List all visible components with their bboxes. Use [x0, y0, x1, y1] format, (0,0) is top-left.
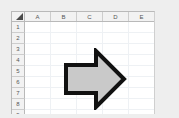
- table-row: 2: [12, 33, 154, 44]
- cell-c8[interactable]: [77, 99, 103, 110]
- cell-c6[interactable]: [77, 77, 103, 88]
- cell-a6[interactable]: [25, 77, 51, 88]
- column-header-row: A B C D E: [12, 12, 154, 22]
- cell-d2[interactable]: [103, 33, 129, 44]
- row-header-3[interactable]: 3: [12, 44, 25, 55]
- cell-b1[interactable]: [51, 22, 77, 33]
- table-row: 3: [12, 44, 154, 55]
- select-all-corner[interactable]: [12, 12, 25, 21]
- row-header-5[interactable]: 5: [12, 66, 25, 77]
- cell-d4[interactable]: [103, 55, 129, 66]
- cell-d3[interactable]: [103, 44, 129, 55]
- cell-e3[interactable]: [129, 44, 155, 55]
- row-header-1[interactable]: 1: [12, 22, 25, 33]
- select-all-triangle-icon: [16, 13, 23, 20]
- cell-c7[interactable]: [77, 88, 103, 99]
- spreadsheet-grid[interactable]: A B C D E 1 2 3: [11, 11, 155, 114]
- cell-c5[interactable]: [77, 66, 103, 77]
- table-row: 8: [12, 99, 154, 110]
- cell-d1[interactable]: [103, 22, 129, 33]
- table-row: 5: [12, 66, 154, 77]
- cell-e5[interactable]: [129, 66, 155, 77]
- column-header-c[interactable]: C: [77, 12, 103, 21]
- column-header-a[interactable]: A: [25, 12, 51, 21]
- cell-b9[interactable]: [51, 110, 77, 114]
- cell-c9[interactable]: [77, 110, 103, 114]
- row-header-8[interactable]: 8: [12, 99, 25, 110]
- cell-e1[interactable]: [129, 22, 155, 33]
- cell-e2[interactable]: [129, 33, 155, 44]
- row-header-9[interactable]: 9: [12, 110, 25, 114]
- cell-c2[interactable]: [77, 33, 103, 44]
- cell-e9[interactable]: [129, 110, 155, 114]
- row-header-4[interactable]: 4: [12, 55, 25, 66]
- table-row: 1: [12, 22, 154, 33]
- cell-e7[interactable]: [129, 88, 155, 99]
- cell-e8[interactable]: [129, 99, 155, 110]
- cell-a3[interactable]: [25, 44, 51, 55]
- cell-a5[interactable]: [25, 66, 51, 77]
- cell-a4[interactable]: [25, 55, 51, 66]
- row-header-2[interactable]: 2: [12, 33, 25, 44]
- cell-e4[interactable]: [129, 55, 155, 66]
- cell-b3[interactable]: [51, 44, 77, 55]
- table-row: 6: [12, 77, 154, 88]
- cell-b4[interactable]: [51, 55, 77, 66]
- row-header-7[interactable]: 7: [12, 88, 25, 99]
- cell-a2[interactable]: [25, 33, 51, 44]
- cell-d9[interactable]: [103, 110, 129, 114]
- cell-b8[interactable]: [51, 99, 77, 110]
- grid-body: 1 2 3 4: [12, 22, 154, 114]
- column-header-b[interactable]: B: [51, 12, 77, 21]
- column-header-d[interactable]: D: [103, 12, 129, 21]
- column-header-e[interactable]: E: [129, 12, 155, 21]
- row-header-6[interactable]: 6: [12, 77, 25, 88]
- cell-d7[interactable]: [103, 88, 129, 99]
- cell-a1[interactable]: [25, 22, 51, 33]
- cell-b6[interactable]: [51, 77, 77, 88]
- cell-a7[interactable]: [25, 88, 51, 99]
- table-row: 7: [12, 88, 154, 99]
- cell-a9[interactable]: [25, 110, 51, 114]
- cell-d5[interactable]: [103, 66, 129, 77]
- cell-c1[interactable]: [77, 22, 103, 33]
- cell-c3[interactable]: [77, 44, 103, 55]
- cell-c4[interactable]: [77, 55, 103, 66]
- table-row: 4: [12, 55, 154, 66]
- cell-b5[interactable]: [51, 66, 77, 77]
- cell-d8[interactable]: [103, 99, 129, 110]
- cell-d6[interactable]: [103, 77, 129, 88]
- cell-b7[interactable]: [51, 88, 77, 99]
- cell-a8[interactable]: [25, 99, 51, 110]
- table-row: 9: [12, 110, 154, 114]
- cell-e6[interactable]: [129, 77, 155, 88]
- cell-b2[interactable]: [51, 33, 77, 44]
